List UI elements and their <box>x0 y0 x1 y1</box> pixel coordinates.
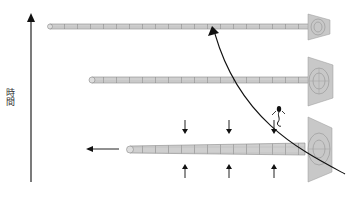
arrow-up-icon <box>271 164 277 178</box>
compression-arrows-top <box>182 120 277 134</box>
compression-arrows-bottom <box>182 164 277 178</box>
funnel-icon <box>308 117 332 182</box>
arrow-up-icon <box>226 164 232 178</box>
funnel-icon <box>308 14 330 40</box>
tube-stage-middle <box>89 57 333 106</box>
arrow-up-icon <box>182 164 188 178</box>
diagram-canvas: 時間 <box>0 0 351 201</box>
time-axis-arrow-icon <box>27 13 35 182</box>
arrow-down-icon <box>182 120 188 134</box>
funnel-icon <box>308 57 333 106</box>
arrow-left-icon <box>86 146 119 152</box>
tube-stage-top <box>48 14 331 40</box>
arrow-down-icon <box>226 120 232 134</box>
time-axis-label: 時間 <box>3 88 15 106</box>
